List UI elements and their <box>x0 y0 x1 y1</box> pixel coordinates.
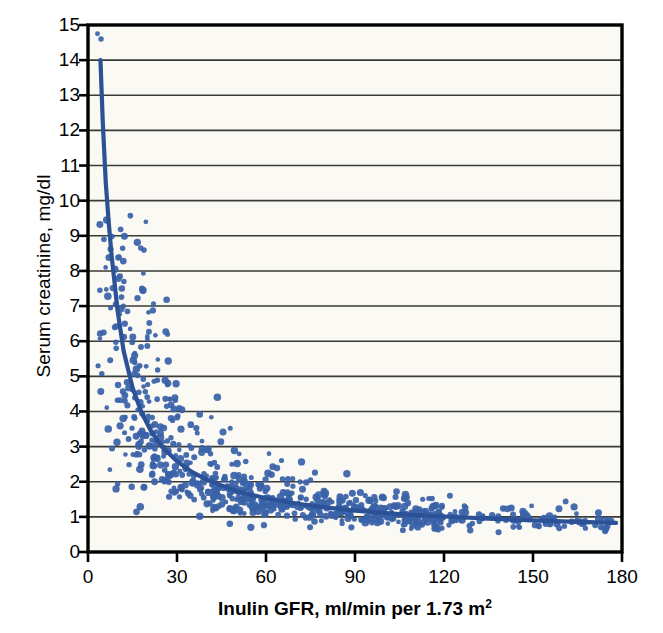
data-point <box>151 456 156 461</box>
data-point <box>233 460 241 468</box>
data-point <box>328 510 333 515</box>
data-point <box>263 509 269 515</box>
data-point <box>364 514 369 519</box>
data-point <box>428 506 434 512</box>
data-point <box>163 296 170 303</box>
data-point <box>128 213 134 219</box>
data-point <box>131 452 136 457</box>
data-point <box>140 376 146 382</box>
data-point <box>150 307 156 313</box>
data-point <box>165 357 172 364</box>
data-point <box>142 447 147 452</box>
data-point <box>133 433 140 440</box>
data-point <box>396 519 401 524</box>
data-point <box>571 503 578 510</box>
data-point <box>170 441 176 447</box>
data-point <box>95 31 100 36</box>
data-point <box>185 490 192 497</box>
data-point <box>524 512 530 518</box>
data-point <box>439 504 445 510</box>
data-point <box>393 488 400 495</box>
data-point <box>374 519 381 526</box>
data-point <box>97 388 104 395</box>
data-point <box>97 288 103 294</box>
data-point <box>143 219 148 224</box>
data-point <box>431 519 436 524</box>
data-point <box>284 512 290 518</box>
data-point <box>164 404 170 410</box>
data-point <box>421 519 427 525</box>
data-point <box>126 462 131 467</box>
data-point <box>168 488 174 494</box>
data-point <box>105 425 113 433</box>
data-point <box>563 498 569 504</box>
data-point <box>387 503 394 510</box>
data-point <box>146 320 152 326</box>
data-point <box>125 309 131 315</box>
data-point <box>120 246 125 251</box>
data-point <box>307 524 313 530</box>
data-point <box>196 411 203 418</box>
data-point <box>143 389 149 395</box>
data-point <box>292 510 298 516</box>
data-point <box>200 439 205 444</box>
data-point <box>207 461 213 467</box>
data-point <box>343 470 350 477</box>
data-point <box>401 495 408 502</box>
data-point <box>420 497 425 502</box>
data-point <box>284 504 290 510</box>
data-point <box>183 452 189 458</box>
data-point <box>117 397 123 403</box>
data-point <box>135 443 142 450</box>
data-point <box>268 471 275 478</box>
data-point <box>135 372 141 378</box>
data-point <box>162 396 168 402</box>
data-point <box>179 472 185 478</box>
data-point <box>462 509 469 516</box>
data-point <box>119 415 127 423</box>
data-point <box>115 382 121 388</box>
data-point <box>124 402 130 408</box>
data-point <box>246 481 252 487</box>
data-point <box>122 392 129 399</box>
data-point <box>121 233 128 240</box>
data-point <box>309 512 316 519</box>
data-point <box>446 522 451 527</box>
data-point <box>290 484 295 489</box>
data-point <box>275 512 281 518</box>
data-point <box>229 507 236 514</box>
data-point <box>496 529 502 535</box>
data-point <box>153 333 158 338</box>
data-point <box>377 505 384 512</box>
data-point <box>298 494 304 500</box>
data-point <box>562 524 567 529</box>
data-point <box>98 36 103 41</box>
data-point <box>193 425 199 431</box>
data-point <box>290 476 295 481</box>
data-point <box>199 485 204 490</box>
data-point <box>123 452 128 457</box>
data-point <box>247 487 253 493</box>
data-point <box>336 496 344 504</box>
data-point <box>134 295 140 301</box>
data-point <box>381 495 387 501</box>
data-point <box>227 520 234 527</box>
data-point <box>322 489 330 497</box>
data-point <box>120 258 127 265</box>
data-point <box>289 490 294 495</box>
data-point <box>172 380 179 387</box>
data-point <box>119 294 125 300</box>
data-point <box>151 478 158 485</box>
data-point <box>170 418 175 423</box>
data-point <box>161 478 168 485</box>
data-point <box>113 439 120 446</box>
data-point <box>552 514 557 519</box>
data-point <box>285 476 291 482</box>
data-point <box>209 415 214 420</box>
data-point <box>165 380 172 387</box>
data-point <box>142 432 149 439</box>
data-point <box>103 265 108 270</box>
data-point <box>284 481 290 487</box>
data-point <box>222 474 228 480</box>
data-point <box>155 367 160 372</box>
